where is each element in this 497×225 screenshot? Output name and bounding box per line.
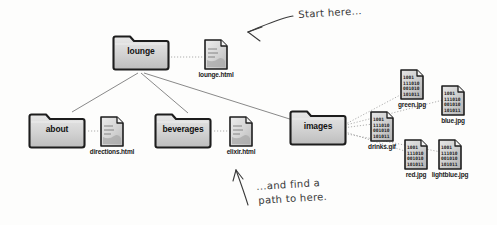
- folder-node-beverages[interactable]: beverages: [152, 111, 214, 151]
- svg-text:1001: 1001: [403, 75, 414, 80]
- svg-text:001010: 001010: [373, 128, 390, 133]
- image-file-icon: 1001 111010 001010 101011: [369, 110, 395, 143]
- svg-text:101011: 101011: [407, 162, 424, 167]
- file-node-red-jpg[interactable]: 1001 111010 001010 101011 red.jpg: [403, 138, 429, 171]
- svg-text:101011: 101011: [441, 162, 458, 167]
- file-label-directions-html: directions.html: [90, 148, 134, 155]
- image-file-icon: 1001 111010 001010 101011: [440, 84, 466, 117]
- file-label-green-jpg: green.jpg: [398, 101, 426, 108]
- diagram-canvas: lounge: [0, 0, 497, 225]
- annotation-find-path-line2: path to here.: [258, 190, 327, 207]
- file-label-red-jpg: red.jpg: [406, 171, 427, 178]
- svg-text:1001: 1001: [441, 145, 452, 150]
- annotation-start-here: Start here...: [298, 4, 362, 21]
- file-node-directions-html[interactable]: directions.html: [99, 115, 125, 148]
- folder-label-lounge: lounge: [110, 46, 172, 56]
- svg-text:1001: 1001: [407, 145, 418, 150]
- folder-node-about[interactable]: about: [26, 111, 88, 151]
- svg-text:001010: 001010: [407, 156, 424, 161]
- folder-label-images: images: [287, 121, 349, 131]
- file-node-blue-jpg[interactable]: 1001 111010 001010 101011 blue.jpg: [440, 84, 466, 117]
- html-file-icon: [228, 115, 254, 148]
- html-file-icon: [203, 38, 229, 71]
- file-label-blue-jpg: blue.jpg: [441, 117, 465, 124]
- svg-text:111010: 111010: [407, 151, 424, 156]
- file-node-lightblue-jpg[interactable]: 1001 111010 001010 101011 lightblue.jpg: [437, 138, 463, 171]
- svg-text:101011: 101011: [444, 108, 461, 113]
- folder-node-images[interactable]: images: [287, 108, 349, 148]
- image-file-icon: 1001 111010 001010 101011: [399, 68, 425, 101]
- file-label-lounge-html: lounge.html: [198, 71, 233, 78]
- svg-text:111010: 111010: [441, 151, 458, 156]
- svg-text:101011: 101011: [403, 92, 420, 97]
- svg-text:001010: 001010: [444, 102, 461, 107]
- folder-node-lounge[interactable]: lounge: [110, 33, 172, 73]
- file-label-elixir-html: elixir.html: [227, 148, 256, 155]
- svg-text:001010: 001010: [441, 156, 458, 161]
- svg-text:111010: 111010: [444, 97, 461, 102]
- file-node-lounge-html[interactable]: lounge.html: [203, 38, 229, 71]
- svg-text:1001: 1001: [444, 91, 455, 96]
- folder-label-beverages: beverages: [152, 124, 214, 134]
- image-file-icon: 1001 111010 001010 101011: [403, 138, 429, 171]
- file-node-green-jpg[interactable]: 1001 111010 001010 101011 green.jpg: [399, 68, 425, 101]
- svg-text:1001: 1001: [373, 117, 384, 122]
- svg-text:111010: 111010: [373, 123, 390, 128]
- html-file-icon: [99, 115, 125, 148]
- file-label-drinks-gif: drinks.gif: [368, 143, 396, 150]
- svg-text:101011: 101011: [373, 134, 390, 139]
- file-node-drinks-gif[interactable]: 1001 111010 001010 101011 drinks.gif: [369, 110, 395, 143]
- folder-label-about: about: [26, 124, 88, 134]
- svg-text:001010: 001010: [403, 86, 420, 91]
- image-file-icon: 1001 111010 001010 101011: [437, 138, 463, 171]
- file-node-elixir-html[interactable]: elixir.html: [228, 115, 254, 148]
- svg-text:111010: 111010: [403, 81, 420, 86]
- file-label-lightblue-jpg: lightblue.jpg: [432, 171, 469, 178]
